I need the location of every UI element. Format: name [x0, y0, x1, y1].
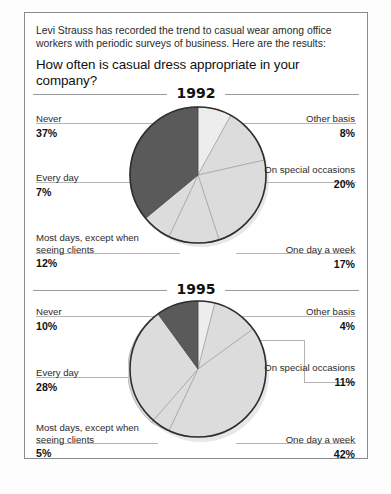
label-most-days-1992-value: 12% — [36, 258, 166, 270]
label-special-1995: On special occasions 11% — [263, 362, 355, 388]
label-never-1992-text: Never — [36, 113, 62, 124]
year-divider-1995: 1995 — [33, 281, 359, 299]
label-never-1995-value: 10% — [36, 321, 146, 333]
label-special-1992-value: 20% — [263, 179, 355, 191]
label-other-basis-1995: Other basis 4% — [235, 306, 355, 332]
label-special-1992-text: On special occasions — [264, 164, 355, 175]
label-other-basis-1995-value: 4% — [235, 321, 355, 333]
label-most-days-1995: Most days, except when seeing clients 5% — [36, 422, 166, 460]
intro-text: Levi Strauss has recorded the trend to c… — [36, 24, 358, 50]
label-most-days-1992-text: Most days, except when seeing clients — [36, 232, 139, 255]
label-one-day-1995: One day a week 42% — [235, 434, 355, 460]
label-one-day-1995-text: One day a week — [286, 434, 355, 445]
label-special-1995-text: On special occasions — [264, 362, 355, 373]
label-special-1992: On special occasions 20% — [263, 164, 355, 190]
label-one-day-1992-value: 17% — [235, 259, 355, 271]
label-one-day-1992: One day a week 17% — [235, 244, 355, 270]
label-one-day-1995-value: 42% — [235, 449, 355, 461]
label-other-basis-1992-value: 8% — [235, 128, 355, 140]
label-every-day-1995: Every day 28% — [36, 367, 136, 393]
label-most-days-1995-text: Most days, except when seeing clients — [36, 422, 139, 445]
year-label-1992: 1992 — [33, 85, 359, 101]
year-divider-1992: 1992 — [33, 85, 359, 103]
label-one-day-1992-text: One day a week — [286, 244, 355, 255]
label-special-1995-value: 11% — [263, 377, 355, 389]
label-every-day-1992-text: Every day — [36, 172, 79, 183]
label-never-1992-value: 37% — [36, 128, 146, 140]
label-other-basis-1995-text: Other basis — [306, 306, 355, 317]
label-other-basis-1992: Other basis 8% — [235, 113, 355, 139]
label-most-days-1995-value: 5% — [36, 448, 166, 460]
label-every-day-1992: Every day 7% — [36, 172, 136, 198]
label-every-day-1992-value: 7% — [36, 187, 136, 199]
label-never-1992: Never 37% — [36, 113, 146, 139]
infographic-figure: Levi Strauss has recorded the trend to c… — [0, 0, 391, 494]
label-never-1995-text: Never — [36, 306, 62, 317]
label-most-days-1992: Most days, except when seeing clients 12… — [36, 232, 166, 270]
label-every-day-1995-text: Every day — [36, 367, 79, 378]
label-every-day-1995-value: 28% — [36, 382, 136, 394]
label-never-1995: Never 10% — [36, 306, 146, 332]
label-other-basis-1992-text: Other basis — [306, 113, 355, 124]
year-label-1995: 1995 — [33, 281, 359, 297]
